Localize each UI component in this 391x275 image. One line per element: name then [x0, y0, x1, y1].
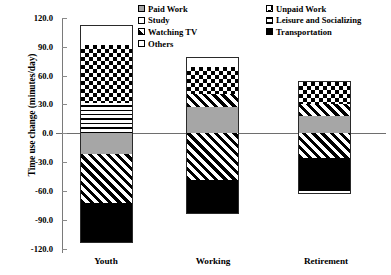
legend-item-study[interactable]: Study	[138, 15, 197, 27]
segment-youth-leisure[interactable]	[80, 103, 133, 133]
legend-label-paid-work: Paid Work	[148, 4, 188, 14]
y-tick-m60	[62, 191, 67, 192]
legend-item-others[interactable]: Others	[138, 38, 197, 50]
legend-label-others: Others	[148, 39, 173, 49]
legend-column-2: Unpaid Work Leisure and Socializing Tran…	[266, 3, 361, 38]
y-tick-m90	[62, 220, 67, 221]
x-label-retirement: Retirement	[281, 256, 371, 266]
legend-label-study: Study	[148, 15, 170, 25]
y-tick-0	[62, 133, 67, 134]
study-swatch	[138, 17, 145, 24]
paid-work-swatch	[138, 5, 145, 12]
transportation-swatch	[266, 28, 273, 35]
y-tick-30	[62, 104, 67, 105]
segment-youth-transportation[interactable]	[80, 203, 133, 243]
y-label-0: 0.0	[5, 128, 53, 138]
y-label-120: 120.0	[5, 13, 53, 23]
segment-youth-paid-work[interactable]	[80, 133, 133, 154]
y-tick-90	[62, 47, 67, 48]
segment-working-others[interactable]	[186, 57, 239, 67]
others-swatch	[138, 40, 145, 47]
legend-item-paid-work[interactable]: Paid Work	[138, 3, 197, 15]
y-label-m120: -120.0	[5, 244, 53, 254]
legend-item-transportation[interactable]: Transportation	[266, 26, 361, 38]
legend-label-leisure: Leisure and Socializing	[276, 15, 361, 25]
legend-item-leisure[interactable]: Leisure and Socializing	[266, 15, 361, 27]
legend-label-unpaid-work: Unpaid Work	[276, 4, 326, 14]
segment-retirement-watching-tv[interactable]	[298, 133, 351, 158]
chart-root: Time use change (minutes/day) 120.0 90.0…	[0, 0, 391, 275]
segment-youth-others[interactable]	[80, 25, 133, 45]
unpaid-work-swatch	[266, 5, 273, 12]
watching-tv-swatch	[138, 28, 145, 35]
y-label-30: 30.0	[5, 99, 53, 109]
segment-retirement-watching-tv-up[interactable]	[298, 104, 351, 116]
legend-label-transportation: Transportation	[276, 27, 332, 37]
segment-working-unpaid-work[interactable]	[186, 67, 239, 94]
legend-column-1: Paid Work Study Watching TV Others	[138, 3, 197, 49]
legend-item-unpaid-work[interactable]: Unpaid Work	[266, 3, 361, 15]
segment-retirement-others[interactable]	[298, 191, 351, 194]
y-label-60: 60.0	[5, 71, 53, 81]
y-tick-m120	[62, 249, 67, 250]
y-tick-60	[62, 76, 67, 77]
leisure-swatch	[266, 17, 273, 24]
segment-working-watching-tv-up[interactable]	[186, 94, 239, 107]
x-label-youth: Youth	[61, 256, 151, 266]
x-label-working: Working	[168, 256, 258, 266]
segment-youth-unpaid-work[interactable]	[80, 45, 133, 103]
y-label-90: 90.0	[5, 42, 53, 52]
segment-working-watching-tv[interactable]	[186, 133, 239, 180]
legend-label-watching-tv: Watching TV	[148, 27, 197, 37]
segment-retirement-transportation[interactable]	[298, 158, 351, 191]
y-axis-title: Time use change (minutes/day)	[27, 25, 37, 205]
y-label-m60: -60.0	[5, 186, 53, 196]
segment-working-transportation[interactable]	[186, 180, 239, 214]
y-tick-120	[62, 18, 67, 19]
segment-youth-watching-tv[interactable]	[80, 154, 133, 203]
y-label-m30: -30.0	[5, 157, 53, 167]
y-axis-line	[62, 18, 63, 253]
segment-retirement-paid-work[interactable]	[298, 116, 351, 133]
y-tick-m30	[62, 162, 67, 163]
segment-working-paid-work[interactable]	[186, 107, 239, 133]
y-label-m90: -90.0	[5, 215, 53, 225]
segment-retirement-unpaid-work[interactable]	[298, 81, 351, 104]
legend-item-watching-tv[interactable]: Watching TV	[138, 26, 197, 38]
